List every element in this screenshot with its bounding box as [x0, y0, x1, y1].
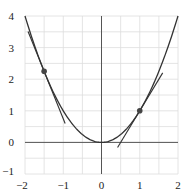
x-tick-label: −2 — [16, 179, 28, 191]
x-tick-label: 2 — [175, 179, 181, 191]
x-tick-label: 0 — [99, 179, 105, 191]
x-tick-label: −1 — [57, 179, 69, 191]
tick-labels: −2−1012−101234 — [2, 10, 180, 191]
tangent-line — [28, 31, 65, 123]
chart: −2−1012−101234 — [0, 0, 188, 193]
y-tick-label: 2 — [9, 73, 15, 85]
y-tick-label: 3 — [9, 42, 15, 54]
tangent-point — [137, 108, 143, 114]
tangent-point — [41, 69, 47, 75]
y-tick-label: 4 — [9, 10, 15, 22]
y-tick-label: 0 — [9, 136, 15, 148]
x-tick-label: 1 — [137, 179, 143, 191]
y-tick-label: −1 — [2, 165, 14, 177]
tangent-points — [41, 69, 142, 114]
plot-area: −2−1012−101234 — [0, 0, 188, 193]
y-tick-label: 1 — [9, 105, 15, 117]
